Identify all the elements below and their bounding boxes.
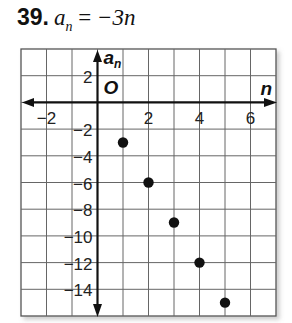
y-tick-label: −4	[73, 148, 92, 167]
x-axis-label: n	[260, 78, 272, 99]
y-tick-label: −6	[73, 175, 92, 194]
x-tick-label: −2	[37, 109, 56, 128]
graph: −22462−2−4−6−8−10−12−14nanO	[0, 0, 292, 323]
origin-label: O	[104, 77, 119, 98]
data-point	[194, 257, 204, 267]
x-tick-label: 4	[195, 109, 204, 128]
y-tick-label: −12	[64, 255, 93, 274]
data-point	[143, 177, 153, 187]
x-tick-label: 6	[246, 109, 255, 128]
x-tick-label: 2	[144, 109, 153, 128]
data-point	[169, 217, 179, 227]
data-point	[220, 297, 230, 307]
y-tick-label: −2	[73, 121, 92, 140]
y-tick-label: −14	[64, 281, 93, 300]
data-point	[118, 137, 128, 147]
y-tick-label: −8	[73, 201, 92, 220]
y-tick-label: −10	[64, 228, 93, 247]
y-tick-label: 2	[83, 68, 92, 87]
